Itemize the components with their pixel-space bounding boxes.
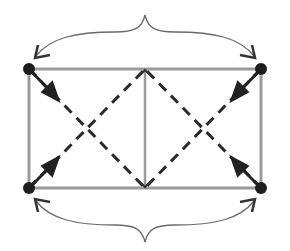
- top-curve-arrowheads: [35, 45, 255, 58]
- bottom-curve-left: [36, 201, 145, 242]
- bottom-curve-arrowheads: [35, 199, 255, 212]
- bottom-curve: [36, 201, 254, 242]
- bottom-left-arrowhead: [35, 199, 50, 212]
- node-top-left: [23, 63, 35, 75]
- node-bottom-right: [255, 182, 267, 194]
- diagram-canvas: [0, 0, 290, 251]
- top-curve-right: [145, 15, 254, 56]
- top-curve: [36, 15, 254, 56]
- node-top-right: [255, 63, 267, 75]
- top-curve-left: [36, 15, 145, 56]
- bottom-curve-right: [145, 201, 254, 242]
- node-bottom-left: [23, 182, 35, 194]
- top-left-arrowhead: [35, 45, 50, 58]
- frame: [29, 69, 261, 188]
- bottom-right-arrowhead: [240, 199, 255, 212]
- top-right-arrowhead: [240, 45, 255, 58]
